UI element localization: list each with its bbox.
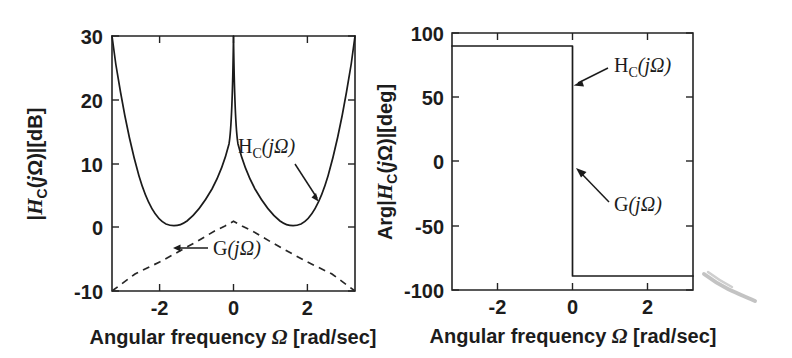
y-axis-close: )|[deg] (374, 84, 396, 145)
phase-plot-svg: HC(jΩ) G(jΩ) 100 50 0 -50 -100 -2 0 2 An… (396, 0, 792, 358)
g-annotation-arrow (576, 168, 609, 202)
x-axis-title-pre: Angular frequency (430, 325, 612, 347)
y-axis-sub: C (384, 174, 400, 184)
magnitude-panel: HC(jΩ) G(jΩ) 30 20 10 0 -10 -2 0 2 Angul… (0, 0, 396, 358)
x-tick-label-0: 0 (567, 296, 578, 318)
y-axis-close: )|[dB] (24, 108, 46, 160)
x-axis-omega-symbol: Ω (272, 325, 288, 349)
y-tick-label-100: 100 (411, 23, 444, 45)
y-tick-label-0: 0 (92, 217, 103, 239)
hc-annotation-arrow (574, 68, 609, 87)
y-axis-omega: Ω (374, 145, 396, 161)
y-axis-title-right: Arg|HC(jΩ)|[deg] (373, 84, 400, 240)
magnitude-plot-svg: HC(jΩ) G(jΩ) 30 20 10 0 -10 -2 0 2 Angul… (0, 0, 396, 358)
figure-container: HC(jΩ) G(jΩ) 30 20 10 0 -10 -2 0 2 Angul… (0, 0, 792, 358)
y-axis-sub: C (34, 188, 50, 198)
y-axis-pre: Arg| (374, 200, 396, 240)
phase-panel: HC(jΩ) G(jΩ) 100 50 0 -50 -100 -2 0 2 An… (396, 0, 792, 358)
g-annotation-label-left: G(jΩ) (213, 237, 261, 260)
x-axis-title-post: [rad/sec] (288, 326, 377, 348)
y-tick-label-20: 20 (81, 90, 103, 112)
y-tick-label-10: 10 (81, 154, 103, 176)
x-axis-title-right: Angular frequency Ω [rad/sec] (430, 324, 717, 348)
x-axis-title-post: [rad/sec] (628, 325, 717, 347)
hc-annot-H: H (238, 135, 252, 157)
x-tick-label-2: 2 (642, 296, 653, 318)
hc-annotation-label-left: HC(jΩ) (238, 135, 295, 161)
y-tick-label-minus100: -100 (404, 280, 444, 302)
y-tick-label-minus50: -50 (415, 216, 444, 238)
y-axis-H: H (373, 183, 397, 201)
y-axis-omega: Ω (24, 160, 46, 176)
hc-annot-sub: C (252, 146, 261, 161)
y-axis-H: H (23, 198, 47, 216)
x-tick-label-minus2: -2 (489, 296, 507, 318)
g-annot-G: G (614, 193, 628, 215)
hc-annotation-label-right: HC(jΩ) (614, 54, 671, 80)
g-annotation-label-right: G(jΩ) (614, 193, 662, 216)
g-annot-G: G (213, 237, 227, 259)
hc-annotation-arrow (295, 164, 319, 202)
x-tick-label-2: 2 (302, 297, 313, 319)
x-axis-title-pre: Angular frequency (90, 326, 272, 348)
y-tick-label-30: 30 (81, 26, 103, 48)
x-axis-omega-symbol: Ω (612, 324, 628, 348)
g-annot-tail: (jΩ) (628, 193, 662, 216)
hc-annot-H: H (614, 54, 628, 76)
x-tick-label-minus2: -2 (151, 297, 169, 319)
hc-phase-step-curve (452, 46, 693, 276)
x-axis-title-left: Angular frequency Ω [rad/sec] (90, 325, 377, 349)
y-tick-label-minus10: -10 (74, 281, 103, 303)
y-tick-label-50: 50 (422, 87, 444, 109)
hc-annot-tail: (jΩ) (638, 54, 672, 77)
hc-annot-sub: C (628, 65, 637, 80)
y-tick-label-0: 0 (433, 151, 444, 173)
hc-annot-tail: (jΩ) (262, 135, 296, 158)
hc-jomega-solid-curve (112, 36, 355, 226)
x-tick-label-0: 0 (228, 297, 239, 319)
y-axis-title-left: |HC(jΩ)|[dB] (23, 108, 50, 221)
g-annot-tail: (jΩ) (227, 237, 261, 260)
